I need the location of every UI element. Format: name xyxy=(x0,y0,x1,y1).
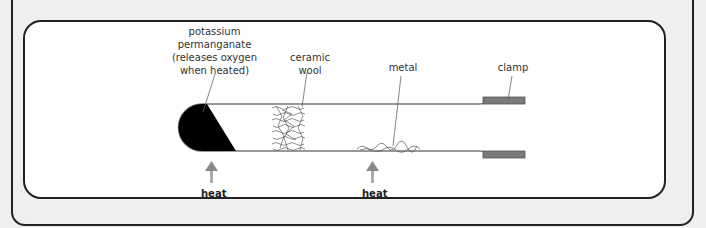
label-ceramic-wool: ceramic wool xyxy=(285,51,335,77)
heat-arrow-icon xyxy=(366,161,379,183)
heat-label: heat xyxy=(201,188,226,199)
clamp-top xyxy=(483,97,525,104)
leader-line-wool xyxy=(302,72,307,107)
apparatus-diagram xyxy=(0,0,706,228)
label-metal: metal xyxy=(388,61,418,74)
heat-label: heat xyxy=(362,188,387,199)
potassium-permanganate-solid xyxy=(178,104,236,151)
label-potassium-permanganate: potassium permanganate (releases oxygen … xyxy=(167,25,262,77)
leader-line-permanganate xyxy=(203,74,215,112)
label-clamp: clamp xyxy=(496,61,530,74)
ceramic-wool xyxy=(272,106,305,151)
leader-line-metal xyxy=(393,76,401,146)
heat-arrow-icon xyxy=(205,161,218,183)
leader-line-clamp xyxy=(508,76,512,100)
clamp-bottom xyxy=(483,151,525,158)
